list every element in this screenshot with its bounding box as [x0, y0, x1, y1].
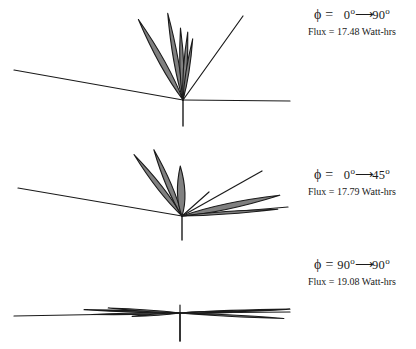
panel-1-flux-label: Flux = 17.48 Watt-hrs	[288, 26, 416, 37]
phi-to-1: 90	[372, 8, 385, 22]
panel-3-annotation: ϕ = 90o⟶90o Flux = 19.08 Watt-hrs	[288, 256, 416, 287]
phi-symbol-3: ϕ =	[314, 257, 334, 272]
degree-symbol-1b: o	[385, 6, 390, 16]
panel-2-ray-0	[18, 188, 182, 216]
panel-2	[18, 150, 288, 240]
degree-symbol-2b: o	[385, 166, 390, 176]
phi-from-3: 90	[337, 258, 350, 272]
panel-1	[14, 13, 290, 126]
degree-symbol-3b: o	[385, 256, 390, 266]
phi-to-3: 90	[372, 258, 385, 272]
panel-3	[14, 305, 290, 341]
phi-symbol-2: ϕ =	[314, 167, 334, 182]
arrow-icon-1: ⟶	[355, 7, 372, 23]
panel-2-annotation: ϕ = 0o⟶45o Flux = 17.79 Watt-hrs	[288, 166, 416, 197]
panel-3-flux-label: Flux = 19.08 Watt-hrs	[288, 276, 416, 287]
arrow-icon-3: ⟶	[355, 257, 372, 273]
panel-3-phi-line: ϕ = 90o⟶90o	[288, 256, 416, 273]
panel-2-phi-line: ϕ = 0o⟶45o	[288, 166, 416, 183]
panel-1-ray-0	[14, 70, 183, 100]
phi-symbol-1: ϕ =	[314, 7, 334, 22]
phi-to-2: 45	[372, 168, 385, 182]
arrow-icon-2: ⟶	[355, 167, 372, 183]
panel-1-ray-1	[183, 100, 290, 101]
panel-1-ray-2	[183, 16, 243, 100]
panel-1-phi-line: ϕ = 0o⟶90o	[288, 6, 416, 23]
panel-2-flux-label: Flux = 17.79 Watt-hrs	[288, 186, 416, 197]
panel-1-annotation: ϕ = 0o⟶90o Flux = 17.48 Watt-hrs	[288, 6, 416, 37]
